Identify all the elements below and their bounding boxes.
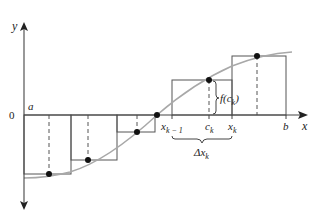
rectangles-below-axis	[24, 115, 155, 174]
delta-xk-label: Δxk	[193, 146, 209, 161]
delta-xk-brace	[172, 136, 232, 143]
rectangle-last	[232, 56, 286, 115]
f-ck-label: f(ck)	[220, 92, 239, 107]
c-k-label: ck	[205, 120, 214, 135]
f-ck-brace	[213, 81, 219, 114]
diagram-canvas: y x 0 a b xk − 1 ck xk f(ck) Δxk	[0, 0, 322, 216]
tick-marks	[172, 115, 286, 119]
riemann-sum-diagram: y x 0 a b xk − 1 ck xk f(ck) Δxk	[0, 0, 322, 216]
interval-right-label-b: b	[283, 120, 289, 132]
origin-label: 0	[9, 109, 15, 121]
rectangle-1	[24, 115, 71, 174]
x-axis-label: x	[301, 119, 308, 133]
rectangles-above-axis	[172, 56, 286, 115]
x-k-label: xk	[227, 120, 237, 135]
axes	[24, 28, 302, 204]
interval-left-label-a: a	[28, 100, 34, 112]
y-axis-label: y	[11, 19, 18, 33]
x-k-minus-1-label: xk − 1	[160, 120, 183, 135]
